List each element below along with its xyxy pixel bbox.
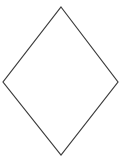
rhombus-shape: [3, 7, 118, 155]
figure-canvas: rhombus: [0, 0, 128, 161]
shape-svg: [0, 0, 128, 161]
